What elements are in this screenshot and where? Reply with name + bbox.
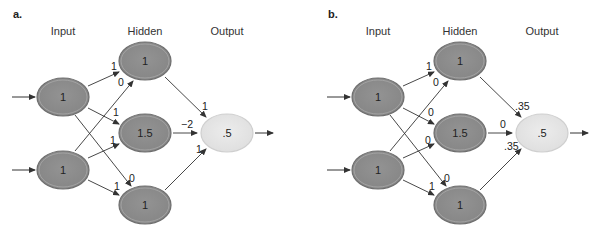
svg-text:1: 1 — [457, 55, 463, 67]
weight-in1-h1: 1 — [426, 60, 432, 72]
output-node: .5 — [516, 114, 568, 152]
hidden-node-1: 1 — [434, 42, 486, 80]
weight-in1-h2: 1 — [113, 106, 119, 118]
svg-text:1: 1 — [60, 91, 66, 103]
weight-in1-h2: 0 — [428, 106, 434, 118]
svg-text:1: 1 — [375, 164, 381, 176]
svg-text:.5: .5 — [537, 127, 546, 139]
edge-in1-h1 — [403, 72, 434, 86]
weight-in2-h1: 0 — [118, 76, 124, 88]
header-input: Input — [366, 25, 390, 37]
edge-h1-out — [165, 77, 206, 117]
output-node: .5 — [201, 114, 253, 152]
weight-h3-out: .35 — [504, 140, 519, 152]
weight-h1-out: 1 — [202, 100, 208, 112]
header-output: Output — [210, 25, 243, 37]
svg-text:1: 1 — [375, 91, 381, 103]
weight-in1-h1: 1 — [111, 60, 117, 72]
weight-h2-out: 0 — [500, 118, 506, 130]
edge-h3-out — [165, 149, 206, 190]
header-input: Input — [51, 25, 75, 37]
svg-text:.5: .5 — [222, 127, 231, 139]
svg-text:1: 1 — [142, 199, 148, 211]
neural-network-diagram: a. Input Hidden Output 1 0 1 1 0 1 1 −2 … — [0, 0, 598, 238]
svg-text:1.5: 1.5 — [137, 127, 152, 139]
input-node-2: 1 — [352, 151, 404, 189]
hidden-node-2: 1.5 — [119, 114, 171, 152]
panel-letter: a. — [13, 8, 22, 20]
weight-in2-h3: 1 — [114, 180, 120, 192]
edge-h3-out — [480, 149, 521, 190]
svg-text:1: 1 — [60, 164, 66, 176]
hidden-node-1: 1 — [119, 42, 171, 80]
hidden-node-3: 1 — [434, 186, 486, 224]
weight-in2-h2: 1 — [110, 134, 116, 146]
weight-h1-out: .35 — [515, 100, 530, 112]
weight-in2-h2: 0 — [425, 134, 431, 146]
weight-in2-h1: 0 — [433, 76, 439, 88]
svg-text:1: 1 — [457, 199, 463, 211]
svg-text:1.5: 1.5 — [452, 127, 467, 139]
input-node-1: 1 — [37, 78, 89, 116]
input-node-2: 1 — [37, 151, 89, 189]
input-node-1: 1 — [352, 78, 404, 116]
weight-h2-out: −2 — [181, 118, 193, 130]
panel-letter: b. — [328, 8, 338, 20]
hidden-node-2: 1.5 — [434, 114, 486, 152]
weight-in2-h3: 1 — [429, 180, 435, 192]
panel-b: b. Input Hidden Output 1 0 0 0 0 1 .35 0… — [327, 8, 588, 224]
header-hidden: Hidden — [443, 25, 478, 37]
weight-in1-h3: 0 — [129, 172, 135, 184]
hidden-node-3: 1 — [119, 186, 171, 224]
panel-a: a. Input Hidden Output 1 0 1 1 0 1 1 −2 … — [12, 8, 273, 224]
header-output: Output — [525, 25, 558, 37]
edge-in1-h1 — [88, 72, 119, 86]
weight-h3-out: 1 — [196, 143, 202, 155]
svg-text:1: 1 — [142, 55, 148, 67]
weight-in1-h3: 0 — [444, 172, 450, 184]
header-hidden: Hidden — [128, 25, 163, 37]
